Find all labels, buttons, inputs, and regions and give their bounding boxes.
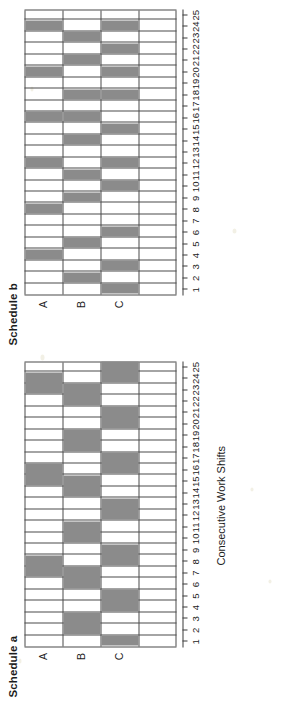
x-tick <box>182 37 187 38</box>
work-block-a-15 <box>25 463 62 484</box>
work-block-c-22 <box>101 43 138 53</box>
work-block-c-20 <box>101 406 138 427</box>
x-tick <box>182 606 187 607</box>
row-label-b: B <box>74 297 86 311</box>
x-tick <box>182 151 187 152</box>
x-tick <box>182 377 187 378</box>
x-tick <box>182 640 187 641</box>
x-tick <box>182 94 187 95</box>
x-tick <box>182 243 187 244</box>
x-tick <box>182 82 187 83</box>
work-block-b-5 <box>63 237 100 247</box>
x-tick <box>182 503 187 504</box>
x-tick <box>182 492 187 493</box>
x-tick <box>182 617 187 618</box>
x-tick <box>182 526 187 527</box>
x-tick <box>182 549 187 550</box>
x-tick <box>182 514 187 515</box>
work-block-c-12 <box>101 157 138 167</box>
grid-hline <box>62 10 63 294</box>
panel-b-grid: ABC 123456789101112131415161718192021222… <box>24 9 220 295</box>
work-block-b-16 <box>63 111 100 121</box>
x-tick <box>182 560 187 561</box>
work-block-c-20 <box>101 66 138 76</box>
work-block-c-16 <box>101 452 138 473</box>
x-tick <box>182 411 187 412</box>
panel-a-grid: ABC 123456789101112131415161718192021222… <box>24 361 220 647</box>
work-block-c-18 <box>101 89 138 99</box>
x-tick <box>182 400 187 401</box>
row-label-c: C <box>112 297 124 311</box>
work-block-b-21 <box>63 54 100 64</box>
x-tick <box>182 14 187 15</box>
work-block-c-15 <box>101 123 138 133</box>
panel-b-title: Schedule b <box>6 283 18 345</box>
work-block-c-24 <box>101 361 138 382</box>
x-tick <box>182 629 187 630</box>
grid-hline <box>175 362 176 646</box>
grid-hline <box>138 10 139 294</box>
x-tick <box>182 71 187 72</box>
work-block-b-22 <box>63 383 100 404</box>
panel-b-grid-area <box>24 9 176 295</box>
row-label-a: A <box>36 649 48 663</box>
schedule-panel-a: Schedule a ABC 1234567891011121314151617… <box>0 351 287 703</box>
grid-hline <box>175 10 176 294</box>
x-tick <box>182 265 187 266</box>
panel-a-grid-area <box>24 361 176 647</box>
work-block-a-7 <box>25 555 62 576</box>
work-block-b-23 <box>63 31 100 41</box>
work-block-c-6 <box>101 226 138 236</box>
x-tick <box>182 446 187 447</box>
work-block-c-10 <box>101 180 138 190</box>
schedule-panel-b: Schedule b ABC 1234567891011121314151617… <box>0 0 287 351</box>
grid-hline <box>24 362 25 646</box>
work-block-a-23 <box>25 372 62 393</box>
x-tick-label-25: 25 <box>189 357 200 377</box>
work-block-a-20 <box>25 66 62 76</box>
work-block-c-8 <box>101 544 138 565</box>
x-tick <box>182 59 187 60</box>
work-block-c-4 <box>101 589 138 610</box>
figure-canvas: Schedule a ABC 1234567891011121314151617… <box>0 0 287 703</box>
x-tick <box>182 48 187 49</box>
work-block-b-10 <box>63 521 100 542</box>
x-tick <box>182 277 187 278</box>
work-block-c-1 <box>101 283 138 293</box>
x-tick <box>182 174 187 175</box>
work-block-b-18 <box>63 429 100 450</box>
work-block-b-14 <box>63 134 100 144</box>
x-tick <box>182 25 187 26</box>
x-tick <box>182 231 187 232</box>
x-tick <box>182 457 187 458</box>
work-block-a-4 <box>25 249 62 259</box>
work-block-b-9 <box>63 192 100 202</box>
x-tick <box>182 220 187 221</box>
work-block-b-18 <box>63 89 100 99</box>
x-tick <box>182 480 187 481</box>
panel-a-title: Schedule a <box>6 635 18 697</box>
row-label-b: B <box>74 649 86 663</box>
x-tick <box>182 572 187 573</box>
work-block-b-14 <box>63 475 100 496</box>
x-tick <box>182 288 187 289</box>
x-tick <box>182 105 187 106</box>
work-block-b-11 <box>63 169 100 179</box>
work-block-a-24 <box>25 20 62 30</box>
work-block-b-6 <box>63 566 100 587</box>
x-tick <box>182 583 187 584</box>
x-tick <box>182 389 187 390</box>
x-tick <box>182 185 187 186</box>
x-tick-label-25: 25 <box>189 5 200 25</box>
work-block-a-8 <box>25 203 62 213</box>
x-tick <box>182 434 187 435</box>
row-label-a: A <box>36 297 48 311</box>
x-tick <box>182 197 187 198</box>
x-tick <box>182 366 187 367</box>
work-block-c-1 <box>101 635 138 645</box>
grid-hline <box>138 362 139 646</box>
x-axis-title: Consecutive Work Shifts <box>214 445 226 565</box>
work-block-c-24 <box>101 20 138 30</box>
x-tick <box>182 537 187 538</box>
x-tick <box>182 208 187 209</box>
